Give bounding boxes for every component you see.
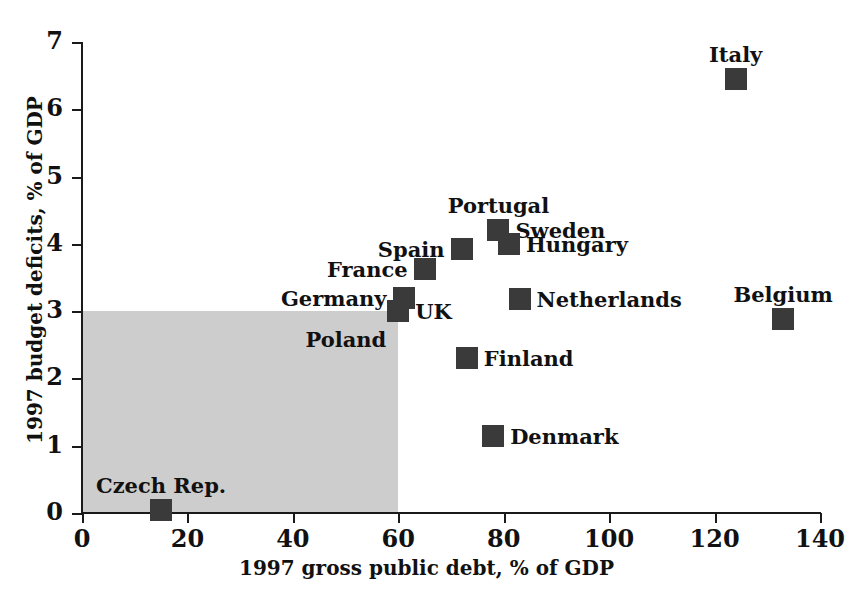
scatter-chart: 01234567 020406080100120140 ItalyPortuga… [0,0,853,594]
x-tick-label-80: 80 [464,524,544,553]
data-marker-finland [456,347,478,369]
x-tick-80 [504,513,506,523]
x-tick-120 [715,513,717,523]
data-marker-czech-rep [150,499,172,521]
x-axis-line [81,512,821,514]
data-marker-netherlands [509,288,531,310]
x-tick-label-60: 60 [358,524,438,553]
y-tick-7 [72,42,82,44]
x-tick-140 [820,513,822,523]
point-label-finland: Finland [484,348,574,369]
x-tick-100 [609,513,611,523]
data-marker-spain [451,238,473,260]
point-label-italy: Italy [709,44,762,65]
y-tick-4 [72,244,82,246]
point-label-netherlands: Netherlands [537,289,682,310]
point-label-poland: Poland [306,329,387,350]
x-tick-label-100: 100 [569,524,649,553]
data-marker-uk [387,300,409,322]
point-label-france: France [327,258,408,279]
x-tick-0 [82,513,84,523]
data-marker-hungary [498,233,520,255]
data-marker-denmark [482,425,504,447]
point-label-belgium: Belgium [733,284,832,305]
x-tick-40 [293,513,295,523]
data-marker-france [414,258,436,280]
point-label-hungary: Hungary [526,233,628,254]
x-tick-label-120: 120 [675,524,755,553]
x-tick-label-0: 0 [42,524,122,553]
y-tick-2 [72,378,82,380]
y-tick-5 [72,177,82,179]
y-tick-6 [72,109,82,111]
point-label-czech-rep: Czech Rep. [96,475,226,496]
x-tick-label-140: 140 [780,524,853,553]
point-label-uk: UK [415,301,452,322]
y-tick-3 [72,311,82,313]
data-marker-italy [725,68,747,90]
y-tick-0 [72,513,82,515]
x-tick-60 [398,513,400,523]
x-tick-label-40: 40 [253,524,333,553]
y-axis-title: 1997 budget deficits, % of GDP [23,30,47,510]
y-axis-line [81,42,83,514]
point-label-germany: Germany [281,287,387,308]
point-label-denmark: Denmark [510,425,618,446]
y-tick-1 [72,446,82,448]
x-axis-title: 1997 gross public debt, % of GDP [0,556,853,580]
x-tick-20 [187,513,189,523]
data-marker-belgium [772,308,794,330]
point-label-portugal: Portugal [448,195,550,216]
x-tick-label-20: 20 [147,524,227,553]
